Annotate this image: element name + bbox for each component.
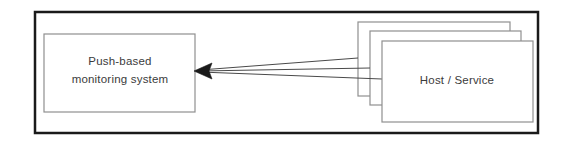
host-service-label: Host / Service bbox=[420, 74, 494, 86]
block-diagram: Host / Service Push-based monitoring sys… bbox=[0, 0, 572, 145]
diagram-canvas: Host / Service Push-based monitoring sys… bbox=[0, 0, 572, 145]
push-system-label-line2: monitoring system bbox=[72, 73, 169, 85]
push-system-label-line1: Push-based bbox=[88, 55, 151, 67]
